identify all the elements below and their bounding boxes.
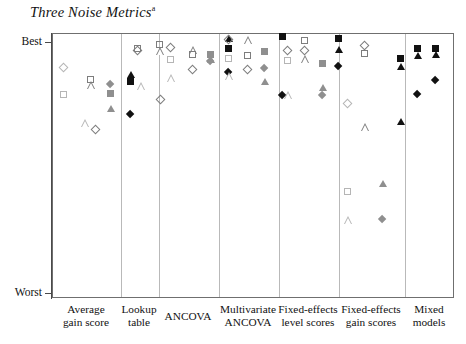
data-point-square-open-light — [284, 57, 291, 64]
chart-title-text: Three Noise Metrics — [30, 4, 152, 20]
y-tick-worst — [45, 293, 51, 294]
data-point-square-black — [279, 33, 286, 40]
data-point-diamond-open-mid — [361, 42, 368, 49]
data-point-triangle-black — [335, 46, 343, 53]
data-point-triangle-gray — [261, 78, 269, 85]
data-point-square-open-light — [60, 91, 67, 98]
data-point-diamond-gray — [379, 216, 385, 222]
data-point-square-open-mid — [244, 52, 251, 59]
y-axis-label-best: Best — [0, 35, 42, 47]
data-point-triangle-gray — [379, 180, 387, 187]
data-point-diamond-open-mid — [244, 66, 251, 73]
data-point-square-black — [397, 55, 404, 62]
data-point-diamond-open-mid — [92, 126, 99, 133]
panel-divider-6 — [405, 34, 406, 297]
data-point-triangle-open-mid — [156, 47, 165, 55]
data-point-diamond-open-mid — [225, 36, 232, 43]
plot-area — [52, 33, 454, 298]
data-point-square-gray — [319, 60, 326, 67]
data-point-triangle-gray — [107, 105, 115, 112]
data-point-square-open-mid — [189, 51, 196, 58]
data-point-diamond-gray — [319, 92, 325, 98]
data-point-triangle-gray — [319, 84, 327, 91]
data-point-square-open-mid — [361, 50, 368, 57]
data-point-triangle-black — [397, 63, 405, 70]
data-point-triangle-black — [432, 51, 440, 58]
data-point-square-black — [225, 45, 232, 52]
data-point-square-gray — [107, 90, 114, 97]
panel-divider-3 — [219, 34, 220, 297]
data-point-diamond-black — [335, 63, 341, 69]
panel-divider-2 — [159, 34, 160, 297]
chart-title-footnote-marker: a — [152, 4, 156, 13]
data-point-square-black — [335, 35, 342, 42]
data-point-diamond-open-light — [60, 64, 67, 71]
panel-divider-1 — [121, 34, 122, 297]
x-axis-label-6: Mixedmodels — [369, 303, 466, 329]
data-point-diamond-black — [127, 111, 133, 117]
data-point-diamond-open-mid — [157, 96, 164, 103]
data-point-square-black — [127, 78, 134, 85]
data-point-square-open-light — [167, 56, 174, 63]
data-point-square-open-light — [344, 188, 351, 195]
data-point-square-open-mid — [301, 37, 308, 44]
data-point-square-open-light — [225, 55, 232, 62]
x-axis-label-line1: Mixed — [369, 303, 466, 316]
y-tick-best — [45, 42, 51, 43]
data-point-diamond-black — [432, 77, 438, 83]
data-point-triangle-gray — [207, 56, 215, 63]
data-point-square-black — [414, 45, 421, 52]
data-point-diamond-open-mid — [284, 47, 291, 54]
chart-title: Three Noise Metricsa — [30, 4, 155, 21]
x-axis-label-line2: models — [369, 316, 466, 329]
data-point-diamond-open-mid — [301, 47, 308, 54]
data-point-diamond-open-light — [344, 100, 351, 107]
data-point-triangle-open-light — [225, 72, 234, 80]
data-point-diamond-open-mid — [189, 66, 196, 73]
data-point-triangle-open-mid — [87, 81, 96, 89]
data-point-square-gray — [261, 48, 268, 55]
data-point-triangle-open-light — [167, 74, 176, 82]
data-point-triangle-open-mid — [244, 36, 253, 44]
data-point-diamond-gray — [107, 81, 113, 87]
data-point-triangle-black — [414, 52, 422, 59]
data-point-triangle-open-light — [344, 216, 353, 224]
panel-divider-4 — [279, 34, 280, 297]
data-point-triangle-open-light — [284, 91, 293, 99]
data-point-diamond-open-mid — [167, 44, 174, 51]
data-point-diamond-black — [414, 91, 420, 97]
data-point-triangle-open-light — [137, 82, 146, 90]
data-point-triangle-black — [397, 118, 405, 125]
y-axis-label-worst: Worst — [0, 286, 42, 298]
data-point-triangle-open-mid — [361, 123, 370, 131]
data-point-square-open-mid — [134, 45, 141, 52]
figure-container: Three Noise Metricsa Best Worst Averageg… — [0, 0, 466, 344]
data-point-triangle-open-light — [81, 119, 90, 127]
panel-divider-5 — [339, 34, 340, 297]
data-point-triangle-black — [127, 71, 135, 78]
data-point-triangle-open-mid — [301, 55, 310, 63]
data-point-diamond-gray — [261, 65, 267, 71]
